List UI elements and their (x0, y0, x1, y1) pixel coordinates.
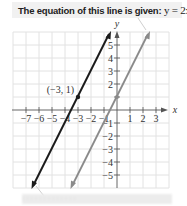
x-tick-label: −3 (73, 113, 84, 124)
x-tick-label: 2 (141, 113, 146, 124)
y-intercept-point (115, 95, 119, 99)
point-neg3-1 (76, 95, 80, 99)
point-label: (−3, 1) (47, 84, 74, 96)
footer-caption: · · · · · · · · · · · · · (22, 194, 172, 204)
callout-line (138, 18, 146, 30)
x-tick-label: −6 (34, 113, 45, 124)
y-tick-label: 3 (108, 66, 113, 77)
x-axis-arrow-icon (161, 108, 168, 113)
x-tick-label: −7 (21, 113, 32, 124)
axes (12, 36, 163, 188)
y-tick-label: 4 (108, 53, 113, 64)
y-tick-label: −2 (102, 131, 113, 142)
x-tick-label: −5 (47, 113, 58, 124)
y-axis-label: y (114, 18, 120, 29)
x-tick-labels: −7 −6 −5 −4 −3 −2 −1 1 2 3 (21, 113, 159, 124)
x-tick-label: −2 (86, 113, 97, 124)
y-tick-label: 5 (108, 40, 113, 51)
x-tick-label: 1 (128, 113, 133, 124)
y-tick-label: −3 (102, 144, 113, 155)
x-axis-label: x (172, 104, 178, 115)
y-tick-label: 2 (108, 79, 113, 90)
coordinate-graph: −7 −6 −5 −4 −3 −2 −1 1 2 3 5 4 3 2 1 −1 … (0, 0, 187, 206)
x-tick-label: 3 (154, 113, 159, 124)
y-tick-label: −5 (102, 170, 113, 181)
y-tick-label: −4 (102, 157, 113, 168)
